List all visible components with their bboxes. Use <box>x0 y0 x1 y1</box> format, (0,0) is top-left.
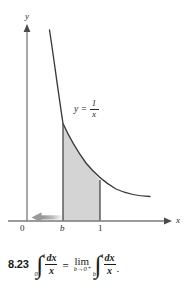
curve-label-equals: = <box>81 104 86 114</box>
x-axis-label: x <box>176 216 180 225</box>
figure-caption: 8.23 ∫ 1 0 dx x = lim b→0⁺ ∫ <box>0 252 188 298</box>
rhs-integrand-numerator: dx <box>104 253 116 264</box>
limit-expression: lim b→0⁺ <box>74 256 90 273</box>
lhs-integral-lower-limit: 0 <box>35 271 38 276</box>
tick-label-one: 1 <box>98 224 103 233</box>
y-axis-arrowhead <box>24 24 31 32</box>
figure-container: y x 0 b 1 y = 1 x 8.23 ∫ 1 0 <box>0 0 188 298</box>
caption-equals-sign: = <box>62 259 68 271</box>
rhs-integral: ∫ 1 b dx x <box>94 253 116 276</box>
integral-symbol-lhs: ∫ 1 0 <box>36 255 45 275</box>
x-axis-arrowhead <box>164 218 172 225</box>
curve-equation-label: y = 1 x <box>74 99 99 120</box>
y-axis-label: y <box>25 12 29 21</box>
curve-label-lhs: y <box>74 104 78 114</box>
curve-label-denominator: x <box>90 110 98 119</box>
lhs-integrand-numerator: dx <box>45 253 57 264</box>
lhs-integrand: dx x <box>45 253 57 276</box>
caption-equation: ∫ 1 0 dx x = lim b→0⁺ ∫ 1 b <box>36 253 120 276</box>
rhs-integrand: dx x <box>104 253 116 276</box>
rhs-integral-upper-limit: 1 <box>101 253 104 258</box>
limit-subscript: b→0⁺ <box>74 266 90 273</box>
graph-svg <box>0 0 188 250</box>
curve-label-fraction: 1 x <box>90 99 99 120</box>
curve-label-numerator: 1 <box>90 99 99 108</box>
figure-number: 8.23 <box>8 258 29 270</box>
origin-tick-label: 0 <box>20 224 25 233</box>
rhs-integral-lower-limit: b <box>93 271 96 276</box>
tick-label-b: b <box>60 224 65 233</box>
lhs-integral: ∫ 1 0 dx x <box>36 253 58 276</box>
lhs-integral-upper-limit: 1 <box>43 253 46 258</box>
plot-area: y x 0 b 1 y = 1 x <box>0 0 188 250</box>
lhs-integrand-denominator: x <box>48 266 55 277</box>
caption-period: . <box>117 262 120 274</box>
integral-symbol-rhs: ∫ 1 b <box>94 255 103 275</box>
rhs-integrand-denominator: x <box>106 266 113 277</box>
